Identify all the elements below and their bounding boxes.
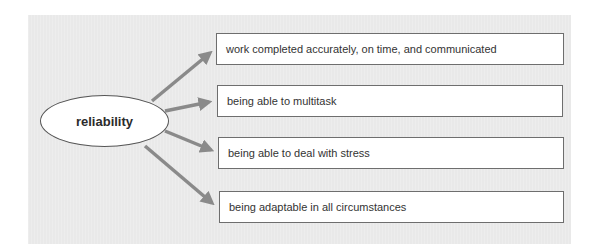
branch-box-3: being able to deal with stress: [218, 137, 564, 169]
branch-box-1: work completed accurately, on time, and …: [216, 33, 564, 65]
branch-label-4: being adaptable in all circumstances: [229, 201, 406, 213]
center-node-ellipse: reliability: [40, 95, 169, 147]
arrow-to-branch-1: [152, 53, 210, 101]
branch-box-2: being able to multitask: [217, 85, 563, 117]
arrow-to-branch-4: [145, 146, 212, 203]
center-node-label: reliability: [76, 114, 133, 129]
branch-label-1: work completed accurately, on time, and …: [226, 43, 497, 55]
arrow-to-branch-3: [165, 131, 211, 150]
branch-label-2: being able to multitask: [227, 95, 336, 107]
arrow-to-branch-2: [165, 102, 209, 111]
branch-label-3: being able to deal with stress: [228, 147, 370, 159]
branch-box-4: being adaptable in all circumstances: [219, 191, 564, 223]
